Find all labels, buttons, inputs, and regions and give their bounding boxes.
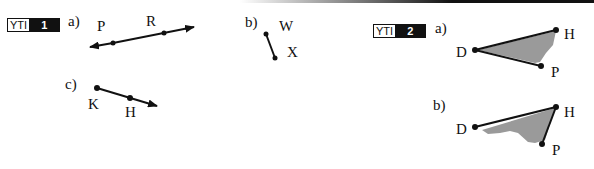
- point-d: [472, 124, 478, 130]
- label-p-b: P: [552, 142, 560, 159]
- angle-hdp: [472, 27, 559, 69]
- label-p: P: [97, 18, 105, 35]
- line-pr: [90, 27, 194, 47]
- point-h: [553, 27, 559, 33]
- point-d: [472, 47, 478, 53]
- label-d-b: D: [456, 121, 467, 138]
- point-p: [538, 63, 544, 69]
- label-x: X: [287, 44, 298, 61]
- point-x: [273, 56, 278, 61]
- label-h: H: [125, 104, 136, 121]
- label-p-a: P: [551, 64, 559, 81]
- point-h: [553, 104, 559, 110]
- figures: [0, 0, 594, 169]
- point-w: [264, 32, 269, 37]
- label-w: W: [279, 18, 293, 35]
- label-d-a: D: [456, 44, 467, 61]
- point-k: [94, 85, 100, 91]
- point-p: [111, 41, 116, 46]
- point-h: [127, 95, 133, 101]
- label-h-b: H: [564, 104, 575, 121]
- segment-wx: [264, 32, 278, 61]
- angle-dhp: [472, 104, 559, 147]
- point-r: [162, 31, 167, 36]
- label-h-a: H: [564, 26, 575, 43]
- point-p: [539, 141, 545, 147]
- ray-kh: [94, 85, 157, 106]
- label-r: R: [146, 13, 156, 30]
- label-k: K: [88, 96, 99, 113]
